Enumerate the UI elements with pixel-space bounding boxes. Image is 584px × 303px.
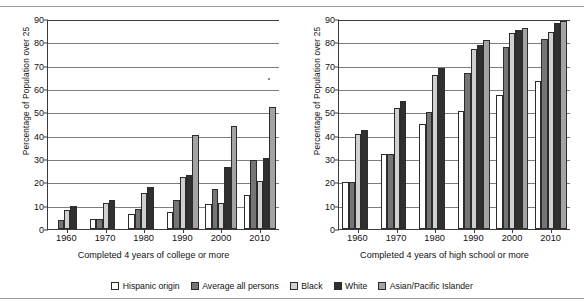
y-axis-tick-label: 90 xyxy=(34,15,44,25)
y-axis-tick-label: 40 xyxy=(34,132,44,142)
legend-item[interactable]: Asian/Pacific Islander xyxy=(378,281,473,291)
bar-asian-pacific-islander-2000 xyxy=(522,28,528,229)
bar-white-1960 xyxy=(361,130,367,229)
bar-asian-pacific-islander-2010 xyxy=(269,107,275,229)
chart-panel-highschool: Percentage of Population over 25 0102030… xyxy=(297,14,579,274)
bar-asian-pacific-islander-1990 xyxy=(483,40,489,229)
bar-groups-right xyxy=(339,20,570,229)
bar-group xyxy=(455,20,494,229)
x-axis-tick-label: 1970 xyxy=(86,233,125,243)
bar-white-1960 xyxy=(70,206,76,229)
bar-asian-pacific-islander-2000 xyxy=(231,126,237,229)
plot-area-left: 0102030405060708090 xyxy=(47,20,279,230)
y-axis-tick-label: 20 xyxy=(325,178,335,188)
bar-groups-left xyxy=(48,20,279,229)
y-axis-tick-label: 80 xyxy=(34,38,44,48)
bar-group xyxy=(87,20,126,229)
y-axis-tick-label: 40 xyxy=(325,132,335,142)
legend-label: White xyxy=(345,281,367,291)
y-axis-tick-label: 60 xyxy=(325,85,335,95)
bar-asian-pacific-islander-2010 xyxy=(560,21,566,229)
legend-item[interactable]: Hispanic origin xyxy=(111,281,179,291)
y-axis-tick-label: 50 xyxy=(325,108,335,118)
bar-group xyxy=(339,20,378,229)
y-axis-tick-label: 30 xyxy=(325,155,335,165)
y-axis-tick-label: 70 xyxy=(34,62,44,72)
y-axis-tick-label: 90 xyxy=(325,15,335,25)
x-axis-label-left: Completed 4 years of college or more xyxy=(26,250,281,260)
x-axis-tick-label: 2000 xyxy=(493,233,532,243)
bar-white-1980 xyxy=(438,68,444,229)
y-axis-tick-label: 70 xyxy=(325,62,335,72)
bar-group xyxy=(493,20,532,229)
x-axis-tick-label: 1960 xyxy=(47,233,86,243)
x-axis-tick-label: 1970 xyxy=(377,233,416,243)
y-axis-tick-label: 30 xyxy=(34,155,44,165)
legend-label: Black xyxy=(301,281,322,291)
x-axis-tick-label: 1990 xyxy=(163,233,202,243)
x-axis-ticks-right: 196019701980199020002010 xyxy=(338,233,570,243)
y-axis-tick-label: 60 xyxy=(34,85,44,95)
y-axis-tick-label: 10 xyxy=(325,202,335,212)
chart-legend: Hispanic originAverage all personsBlackW… xyxy=(0,281,584,291)
bar-white-1970 xyxy=(109,200,115,229)
y-axis-tick-label: 20 xyxy=(34,178,44,188)
y-axis-tick-label: 50 xyxy=(34,108,44,118)
bar-group xyxy=(532,20,571,229)
x-axis-tick-label: 2010 xyxy=(240,233,279,243)
legend-label: Hispanic origin xyxy=(123,281,180,291)
x-axis-tick-label: 1990 xyxy=(454,233,493,243)
bar-group xyxy=(241,20,280,229)
legend-swatch-icon xyxy=(290,282,298,290)
bar-group xyxy=(378,20,417,229)
legend-label: Average all persons xyxy=(202,281,279,291)
bar-group xyxy=(164,20,203,229)
legend-swatch-icon xyxy=(111,282,119,290)
legend-label: Asian/Pacific Islander xyxy=(390,281,473,291)
chart-panel-college: Percentage of Population over 25 0102030… xyxy=(6,14,288,274)
x-axis-ticks-left: 196019701980199020002010 xyxy=(47,233,279,243)
x-axis-tick-label: 1960 xyxy=(338,233,377,243)
y-axis-tick-label: 80 xyxy=(325,38,335,48)
bar-asian-pacific-islander-1990 xyxy=(192,135,198,229)
bar-group xyxy=(48,20,87,229)
bar-group xyxy=(416,20,455,229)
y-axis-tick-mark xyxy=(335,230,339,231)
y-axis-tick-label: 10 xyxy=(34,202,44,212)
x-axis-tick-label: 1980 xyxy=(124,233,163,243)
y-axis-tick-mark xyxy=(44,230,48,231)
bottom-divider-rule xyxy=(0,298,584,299)
bar-group xyxy=(125,20,164,229)
plot-area-right: 0102030405060708090 xyxy=(338,20,570,230)
legend-item[interactable]: Black xyxy=(290,281,323,291)
legend-swatch-icon xyxy=(191,282,199,290)
bar-group xyxy=(202,20,241,229)
bar-white-1980 xyxy=(147,187,153,229)
x-axis-tick-label: 2000 xyxy=(202,233,241,243)
y-axis-label-left: Percentage of Population over 25 xyxy=(21,1,31,181)
x-axis-label-right: Completed 4 years of high school or more xyxy=(317,250,572,260)
legend-swatch-icon xyxy=(378,282,386,290)
x-axis-tick-label: 2010 xyxy=(531,233,570,243)
figure-container: Percentage of Population over 25 0102030… xyxy=(0,0,584,303)
legend-item[interactable]: White xyxy=(334,281,368,291)
y-axis-label-right: Percentage of Population over 25 xyxy=(312,1,322,181)
top-divider-rule xyxy=(0,6,584,7)
legend-item[interactable]: Average all persons xyxy=(191,281,279,291)
x-axis-tick-label: 1980 xyxy=(415,233,454,243)
legend-swatch-icon xyxy=(334,282,342,290)
bar-white-1970 xyxy=(400,101,406,229)
